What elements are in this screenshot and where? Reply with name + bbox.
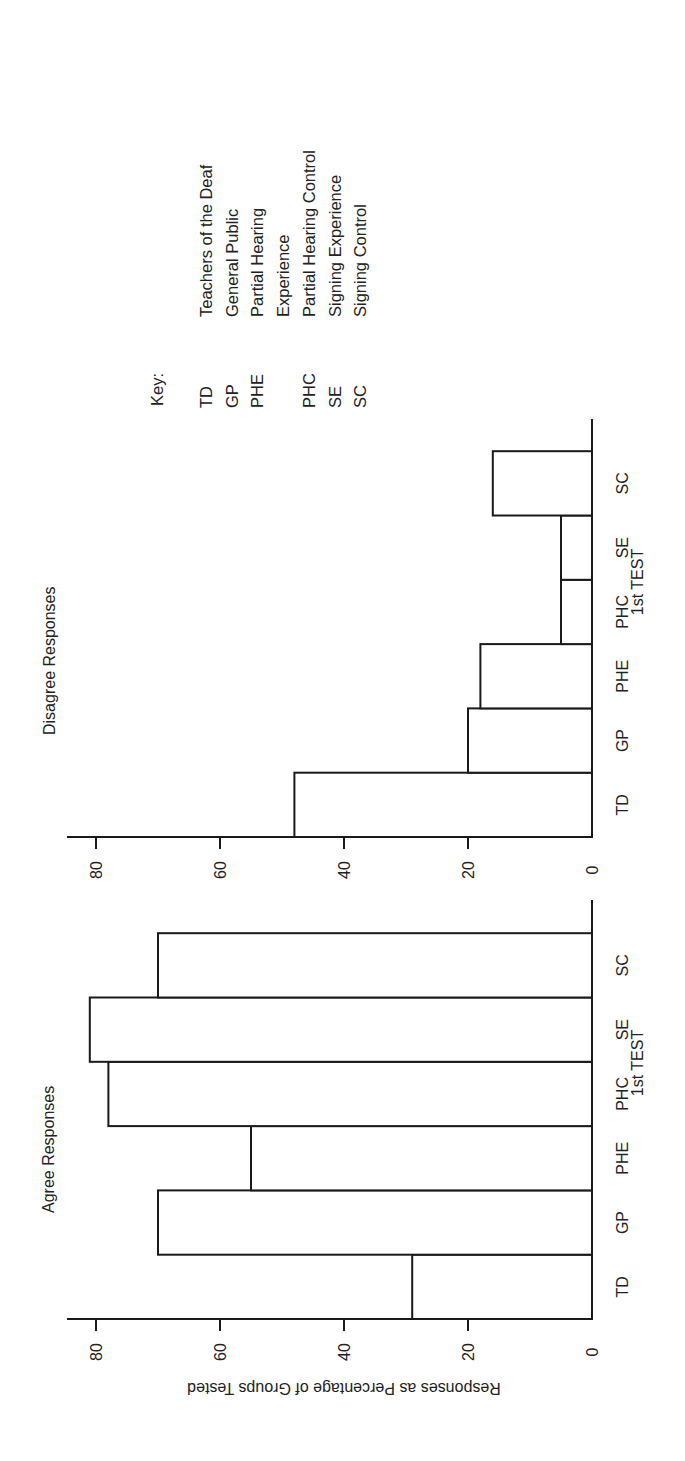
agree-bar-td	[412, 1255, 592, 1319]
value-axis-title: Responses as Percentage of Groups Tested	[187, 1380, 501, 1397]
agree-category-axis-title: 1st TEST	[629, 1030, 646, 1097]
chart-canvas: Key: TDTeachers of the DeafGPGeneral Pub…	[0, 0, 685, 1461]
disagree-category-label-gp: GP	[614, 729, 631, 752]
disagree-category-label-se: SE	[614, 537, 631, 558]
agree-category-label-gp: GP	[614, 1211, 631, 1234]
key-abbreviation: GP	[223, 384, 241, 408]
disagree-chart-title: Disagree Responses	[41, 586, 58, 735]
agree-chart-title: Agree Responses	[40, 1086, 57, 1213]
disagree-category-label-phc: PHC	[614, 595, 631, 629]
key-description: Teachers of the Deaf	[197, 164, 215, 317]
disagree-bar-td	[294, 773, 592, 837]
key-description: Signing Experience	[326, 175, 344, 317]
agree-category-label-phe: PHE	[614, 1142, 631, 1175]
key-abbreviation: SC	[351, 385, 369, 408]
agree-bar-gp	[158, 1190, 592, 1254]
key-abbreviation: TD	[197, 386, 215, 408]
agree-bar-sc	[158, 933, 592, 997]
disagree-category-label-sc: SC	[614, 472, 631, 494]
disagree-category-label-phe: PHE	[614, 660, 631, 693]
agree-tick-label: 20	[460, 1343, 477, 1361]
key-legend: Key: TDTeachers of the DeafGPGeneral Pub…	[148, 150, 369, 408]
agree-bar-se	[90, 998, 592, 1062]
key-description: Signing Control	[351, 204, 369, 317]
agree-tick-label: 60	[212, 1343, 229, 1361]
agree-tick-label: 40	[336, 1343, 353, 1361]
disagree-category-label-td: TD	[614, 794, 631, 815]
disagree-tick-label: 40	[336, 861, 353, 879]
agree-bar-phc	[108, 1062, 592, 1126]
key-heading: Key:	[148, 373, 166, 406]
key-description: Partial Hearing	[248, 208, 266, 317]
disagree-tick-label: 20	[460, 861, 477, 879]
disagree-bar-phe	[480, 644, 592, 708]
disagree-tick-label: 80	[88, 861, 105, 879]
key-description: Experience	[274, 234, 292, 317]
agree-tick-label: 80	[88, 1343, 105, 1361]
key-abbreviation: PHC	[300, 373, 318, 408]
key-abbreviation: PHE	[248, 374, 266, 408]
disagree-tick-label: 0	[584, 865, 601, 874]
agree-responses-chart: Agree Responses 020406080 1st TEST TDGPP…	[40, 900, 646, 1361]
agree-bars	[90, 933, 592, 1319]
disagree-category-axis-title: 1st TEST	[629, 549, 646, 616]
rotated-bar-chart-figure: Key: TDTeachers of the DeafGPGeneral Pub…	[0, 0, 685, 1461]
disagree-responses-chart: Disagree Responses 020406080 1st TEST TD…	[41, 419, 646, 879]
disagree-tick-label: 60	[212, 861, 229, 879]
disagree-bar-se	[561, 516, 592, 580]
agree-category-label-se: SE	[614, 1019, 631, 1040]
agree-bar-phe	[251, 1126, 592, 1190]
disagree-bar-phc	[561, 580, 592, 644]
agree-category-label-td: TD	[614, 1276, 631, 1297]
disagree-bar-gp	[468, 708, 592, 772]
key-abbreviation: SE	[326, 386, 344, 408]
key-description: Partial Hearing Control	[300, 150, 318, 317]
disagree-bar-sc	[493, 451, 592, 515]
agree-category-label-phc: PHC	[614, 1077, 631, 1111]
agree-category-label-sc: SC	[614, 954, 631, 976]
agree-tick-label: 0	[584, 1347, 601, 1356]
key-description: General Public	[223, 209, 241, 317]
disagree-bars	[294, 451, 592, 837]
